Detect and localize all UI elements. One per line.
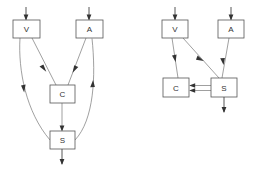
node-a-right[interactable]: A (218, 20, 244, 38)
node-v-right[interactable]: V (162, 20, 188, 38)
node-c-left[interactable]: C (50, 85, 75, 103)
input-arrow-v-left (24, 7, 29, 21)
left-diagram: V A C S (13, 7, 103, 165)
edge-v-to-s-left (20, 38, 50, 140)
input-arrow-v-right (173, 7, 178, 21)
edge-v-to-s-right (183, 38, 219, 78)
edge-c-to-s-left (60, 103, 65, 132)
node-s-right-label: S (221, 84, 226, 93)
input-arrow-a-left (87, 7, 92, 21)
input-arrow-a-right (229, 7, 234, 21)
diagram-surface: V A C S (0, 0, 259, 171)
output-arrow-s-right (222, 97, 227, 113)
right-diagram: V A C S (162, 7, 244, 113)
node-c-right[interactable]: C (163, 78, 189, 97)
node-a-right-label: A (228, 25, 234, 34)
edge-s-to-a-left (75, 39, 95, 141)
node-s-left[interactable]: S (50, 131, 75, 149)
diagram-canvas: V A C S (0, 0, 259, 171)
output-arrow-s-left (60, 149, 65, 165)
node-v-left-label: V (24, 25, 30, 34)
node-c-right-label: C (173, 84, 179, 93)
edge-a-to-c-left (68, 38, 86, 85)
edge-s-to-c-lower-right (189, 88, 211, 93)
edge-v-to-c-left (32, 38, 56, 85)
edge-a-to-s-right (220, 38, 229, 78)
node-s-left-label: S (60, 136, 65, 145)
node-c-left-label: C (60, 90, 66, 99)
node-v-left[interactable]: V (13, 20, 40, 38)
node-a-left[interactable]: A (76, 20, 103, 38)
edge-s-to-c-upper-right (189, 83, 211, 88)
node-a-left-label: A (87, 25, 93, 34)
edge-v-to-c-right (172, 38, 178, 78)
node-s-right[interactable]: S (211, 78, 237, 97)
node-v-right-label: V (172, 25, 178, 34)
